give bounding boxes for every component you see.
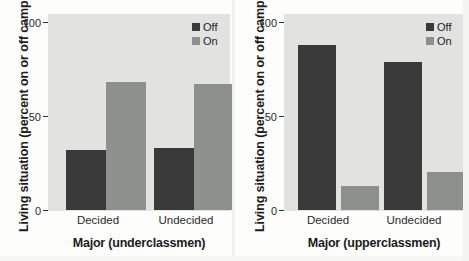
legend-label-on: On bbox=[437, 36, 452, 47]
legend-swatch-off-icon bbox=[426, 23, 434, 31]
legend-label-on: On bbox=[203, 36, 218, 47]
legend: Off On bbox=[426, 21, 452, 47]
y-tick-100: 100 bbox=[14, 16, 48, 28]
page-edge-bottom bbox=[0, 256, 469, 261]
y-tick-mark bbox=[279, 210, 284, 211]
plot-area bbox=[48, 22, 230, 210]
x-tick-undecided: Undecided bbox=[136, 214, 236, 226]
legend-swatch-on-icon bbox=[426, 37, 434, 45]
legend-label-off: Off bbox=[437, 22, 451, 33]
y-tick-0: 0 bbox=[14, 204, 48, 216]
x-tick-decided: Decided bbox=[48, 214, 148, 226]
y-tick-100-label: 100 bbox=[259, 17, 277, 29]
chart-panel-upperclassmen: Living situation (percent on or off camp… bbox=[234, 0, 469, 261]
legend-item-off[interactable]: Off bbox=[192, 21, 218, 33]
legend-swatch-off-icon bbox=[192, 23, 200, 31]
y-tick-0-label: 0 bbox=[271, 205, 277, 217]
legend-swatch-on-icon bbox=[192, 37, 200, 45]
y-tick-100-label: 100 bbox=[23, 17, 41, 29]
legend-item-on[interactable]: On bbox=[426, 35, 452, 47]
page-edge-right bbox=[463, 0, 469, 261]
bar-undecided-off[interactable] bbox=[154, 148, 194, 210]
y-tick-50-label: 50 bbox=[29, 111, 41, 123]
y-tick-50-label: 50 bbox=[265, 111, 277, 123]
y-tick-100: 100 bbox=[248, 16, 284, 28]
y-tick-50: 50 bbox=[248, 110, 284, 122]
bar-decided-off[interactable] bbox=[66, 150, 106, 210]
bar-decided-off[interactable] bbox=[298, 45, 336, 210]
y-tick-50: 50 bbox=[14, 110, 48, 122]
plot-area bbox=[284, 22, 464, 210]
x-axis-title: Major (upperclassmen) bbox=[284, 236, 464, 250]
x-axis-title: Major (underclassmen) bbox=[48, 236, 230, 250]
panel-divider bbox=[232, 0, 235, 261]
legend: Off On bbox=[192, 21, 218, 47]
bar-undecided-off[interactable] bbox=[384, 62, 422, 211]
x-tick-decided: Decided bbox=[278, 214, 378, 226]
legend-label-off: Off bbox=[203, 22, 217, 33]
bar-undecided-on[interactable] bbox=[194, 84, 234, 210]
y-tick-mark bbox=[43, 210, 48, 211]
chart-panel-underclassmen: Living situation (percent on or off camp… bbox=[0, 0, 234, 261]
bar-decided-on[interactable] bbox=[106, 82, 146, 210]
figure: Living situation (percent on or off camp… bbox=[0, 0, 469, 261]
legend-item-off[interactable]: Off bbox=[426, 21, 452, 33]
bar-undecided-on[interactable] bbox=[427, 172, 465, 210]
bar-decided-on[interactable] bbox=[341, 186, 379, 210]
legend-item-on[interactable]: On bbox=[192, 35, 218, 47]
x-tick-undecided: Undecided bbox=[364, 214, 464, 226]
y-tick-0-label: 0 bbox=[35, 205, 41, 217]
